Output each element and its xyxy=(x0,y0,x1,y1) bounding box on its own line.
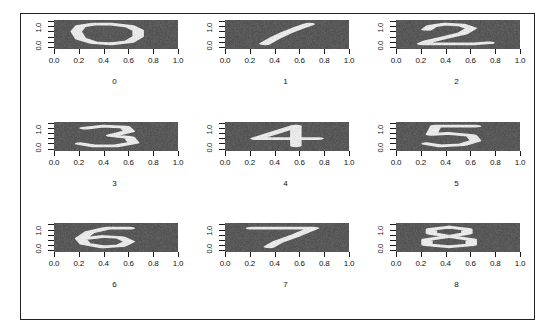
x-tick-label: 0.0 xyxy=(220,56,231,65)
x-tick-labels: 0.00.20.40.60.81.0 xyxy=(35,158,178,170)
digit-raster-5 xyxy=(396,122,520,151)
y-tick-label-top: 1.0 xyxy=(206,125,214,135)
x-tick-marks xyxy=(206,151,349,157)
digit-image xyxy=(225,122,349,151)
x-tick-labels: 0.00.20.40.60.81.0 xyxy=(35,56,178,68)
x-tick-label: 0.6 xyxy=(465,56,476,65)
digit-image xyxy=(396,20,520,49)
y-tick-label-top: 1.0 xyxy=(377,226,385,236)
x-axis: 0.00.20.40.60.81.0 xyxy=(377,151,520,170)
panel-caption-6: 6 xyxy=(21,280,192,289)
x-axis: 0.00.20.40.60.81.0 xyxy=(377,49,520,68)
x-tick xyxy=(446,252,447,257)
y-axis: 1.00.0 xyxy=(206,122,225,151)
x-tick xyxy=(495,151,496,156)
x-tick xyxy=(225,252,226,257)
x-tick-label: 0.8 xyxy=(148,56,159,65)
digit-panel-0: 1.00.00.00.20.40.60.81.00 xyxy=(21,14,192,116)
x-tick-label: 0.8 xyxy=(490,158,501,167)
x-tick xyxy=(396,252,397,257)
digit-image xyxy=(54,223,178,252)
x-tick xyxy=(79,252,80,257)
x-tick xyxy=(470,151,471,156)
y-tick-labels: 1.00.0 xyxy=(206,122,219,151)
x-tick-label: 0.2 xyxy=(74,56,85,65)
x-tick-label: 0.6 xyxy=(123,158,134,167)
x-tick xyxy=(54,49,55,54)
panel-caption-7: 7 xyxy=(192,280,363,289)
x-tick xyxy=(446,49,447,54)
x-tick xyxy=(299,151,300,156)
x-tick xyxy=(178,49,179,54)
x-tick xyxy=(153,49,154,54)
x-tick-label: 0.8 xyxy=(319,259,330,268)
x-tick-label: 1.0 xyxy=(344,259,355,268)
x-tick-label: 0.0 xyxy=(391,259,402,268)
digit-panel-7: 1.00.00.00.20.40.60.81.07 xyxy=(192,217,363,319)
y-tick-label-top: 1.0 xyxy=(35,125,43,135)
x-tick-marks xyxy=(377,151,520,157)
x-tick-label: 0.8 xyxy=(319,56,330,65)
x-tick-label: 0.2 xyxy=(416,56,427,65)
digit-panel-4: 1.00.00.00.20.40.60.81.04 xyxy=(192,116,363,218)
x-tick xyxy=(153,252,154,257)
x-tick xyxy=(349,49,350,54)
x-tick-labels: 0.00.20.40.60.81.0 xyxy=(35,259,178,271)
digit-raster-6 xyxy=(54,223,178,252)
x-tick-label: 0.0 xyxy=(49,158,60,167)
digit-panel-3: 1.00.00.00.20.40.60.81.03 xyxy=(21,116,192,218)
x-tick-label: 0.6 xyxy=(465,158,476,167)
x-axis: 0.00.20.40.60.81.0 xyxy=(35,49,178,68)
x-tick-label: 0.2 xyxy=(416,259,427,268)
x-tick-label: 0.4 xyxy=(440,259,451,268)
x-tick xyxy=(495,252,496,257)
panel-caption-3: 3 xyxy=(21,179,192,188)
digit-raster-2 xyxy=(396,20,520,49)
plot-area: 1.00.0 xyxy=(206,122,349,151)
x-tick-label: 0.0 xyxy=(49,56,60,65)
x-tick-label: 0.4 xyxy=(269,259,280,268)
x-tick xyxy=(299,252,300,257)
y-tick-label-top: 1.0 xyxy=(206,226,214,236)
x-tick-label: 0.0 xyxy=(391,56,402,65)
x-tick xyxy=(128,151,129,156)
y-tick-labels: 1.00.0 xyxy=(35,223,48,252)
y-axis: 1.00.0 xyxy=(206,20,225,49)
x-tick-label: 0.8 xyxy=(490,259,501,268)
x-tick-label: 0.4 xyxy=(98,56,109,65)
x-tick-label: 0.8 xyxy=(148,259,159,268)
x-tick-marks xyxy=(35,252,178,258)
y-tick-labels: 1.00.0 xyxy=(377,223,390,252)
panel-caption-8: 8 xyxy=(363,280,534,289)
x-tick xyxy=(250,49,251,54)
x-tick-label: 1.0 xyxy=(515,158,526,167)
y-tick-label-top: 1.0 xyxy=(35,226,43,236)
digit-image xyxy=(54,20,178,49)
x-axis: 0.00.20.40.60.81.0 xyxy=(206,151,349,170)
x-tick-label: 1.0 xyxy=(515,56,526,65)
digit-image xyxy=(225,223,349,252)
y-tick-labels: 1.00.0 xyxy=(377,122,390,151)
x-tick-label: 0.2 xyxy=(245,56,256,65)
x-tick-label: 0.6 xyxy=(123,259,134,268)
plot-area: 1.00.0 xyxy=(377,223,520,252)
x-tick-label: 0.8 xyxy=(148,158,159,167)
x-tick-label: 0.4 xyxy=(269,158,280,167)
digit-panel-5: 1.00.00.00.20.40.60.81.05 xyxy=(363,116,534,218)
x-tick-label: 0.4 xyxy=(440,56,451,65)
x-tick-labels: 0.00.20.40.60.81.0 xyxy=(377,158,520,170)
y-axis: 1.00.0 xyxy=(377,122,396,151)
y-tick-labels: 1.00.0 xyxy=(206,223,219,252)
x-tick xyxy=(324,151,325,156)
panel-caption-0: 0 xyxy=(21,77,192,86)
x-tick-label: 0.6 xyxy=(294,158,305,167)
x-tick xyxy=(275,49,276,54)
x-tick-label: 0.4 xyxy=(98,259,109,268)
y-axis: 1.00.0 xyxy=(35,223,54,252)
digit-panel-6: 1.00.00.00.20.40.60.81.06 xyxy=(21,217,192,319)
x-tick-label: 0.2 xyxy=(245,259,256,268)
x-tick-label: 0.0 xyxy=(220,158,231,167)
x-tick xyxy=(275,252,276,257)
x-tick-label: 0.2 xyxy=(74,259,85,268)
digit-panel-1: 1.00.00.00.20.40.60.81.01 xyxy=(192,14,363,116)
